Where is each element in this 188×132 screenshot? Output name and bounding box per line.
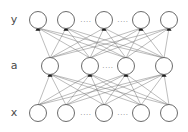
edge-node-x-1-to-node-a-4 (38, 74, 164, 105)
ellipsis-x-right: .... (117, 109, 128, 117)
ellipsis-a-mid: .... (102, 62, 113, 70)
node-y-4[interactable] (133, 12, 150, 29)
node-x-1[interactable] (30, 105, 47, 122)
ellipsis-y-right: .... (117, 16, 128, 24)
node-x-5[interactable] (161, 105, 178, 122)
ellipsis-x-left: .... (80, 109, 91, 117)
neural-network-diagram: .................... yax (0, 0, 188, 132)
node-a-2[interactable] (82, 58, 99, 75)
edge-node-a-4-to-node-y-1 (38, 28, 164, 58)
edge-node-a-3-to-node-y-5 (126, 28, 169, 58)
edge-node-a-3-to-node-y-3 (104, 28, 126, 58)
edge-node-x-5-to-node-a-1 (50, 74, 169, 105)
layer-label-a: a (11, 59, 18, 72)
node-y-5[interactable] (161, 12, 178, 29)
node-y-1[interactable] (30, 12, 47, 29)
edge-node-x-2-to-node-a-2 (66, 74, 90, 105)
layer-label-x: x (11, 106, 18, 119)
layer-labels-group: yax (11, 13, 18, 119)
node-a-4[interactable] (156, 58, 173, 75)
node-y-3[interactable] (96, 12, 113, 29)
node-x-2[interactable] (58, 105, 75, 122)
node-y-2[interactable] (58, 12, 75, 29)
ellipsis-y-left: .... (80, 16, 91, 24)
node-a-1[interactable] (42, 58, 59, 75)
edge-node-x-1-to-node-a-1 (38, 74, 50, 105)
node-x-4[interactable] (133, 105, 150, 122)
network-canvas: .................... yax (0, 0, 188, 132)
node-x-3[interactable] (96, 105, 113, 122)
edge-node-a-4-to-node-y-5 (164, 28, 169, 58)
edge-node-x-2-to-node-a-4 (66, 74, 164, 105)
layer-label-y: y (11, 13, 18, 26)
edge-node-a-2-to-node-y-2 (66, 28, 90, 58)
edge-node-a-1-to-node-y-5 (50, 28, 169, 58)
edge-node-a-1-to-node-y-1 (38, 28, 50, 58)
edge-node-x-5-to-node-a-4 (164, 74, 169, 105)
edge-node-x-5-to-node-a-3 (126, 74, 169, 105)
node-a-3[interactable] (118, 58, 135, 75)
